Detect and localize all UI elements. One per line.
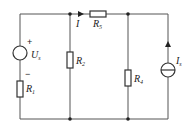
current-arrow-icon bbox=[78, 11, 84, 17]
circuit-diagram: + − Us R1 R2 R5 I R4 Is bbox=[0, 0, 195, 129]
voltage-minus-sign: − bbox=[25, 69, 30, 79]
resistor-r1-icon bbox=[17, 81, 23, 97]
r5-label: R5 bbox=[92, 18, 102, 30]
r1-label: R1 bbox=[25, 83, 35, 95]
r4-label: R4 bbox=[133, 73, 143, 85]
resistor-r2-icon bbox=[67, 52, 73, 68]
voltage-source-label: Us bbox=[31, 49, 41, 61]
r2-label: R2 bbox=[75, 55, 85, 67]
voltage-source-icon bbox=[13, 46, 27, 60]
current-source-icon bbox=[161, 63, 175, 77]
resistor-r5-icon bbox=[90, 11, 106, 17]
resistor-r4-icon bbox=[125, 70, 131, 86]
current-i-label: I bbox=[75, 18, 80, 29]
current-source-arrow-icon bbox=[165, 41, 171, 47]
voltage-plus-sign: + bbox=[27, 37, 32, 47]
wires bbox=[20, 14, 168, 119]
current-source-label: Is bbox=[175, 55, 182, 67]
